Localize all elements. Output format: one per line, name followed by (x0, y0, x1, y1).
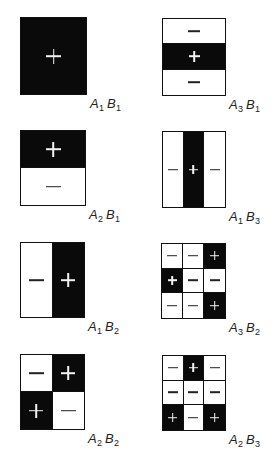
plus-sign-icon (210, 251, 219, 260)
minus-sign-icon (29, 371, 44, 375)
label-b: B (106, 207, 115, 222)
negative-region (162, 244, 183, 269)
negative-region (204, 132, 225, 207)
negative-region (163, 381, 184, 406)
positive-region (184, 132, 205, 207)
label-b-index: 1 (255, 104, 260, 114)
negative-region (163, 132, 184, 207)
negative-region (184, 405, 205, 430)
plus-sign-icon (189, 51, 200, 62)
positive-region (204, 244, 225, 269)
label-b-index: 2 (114, 326, 119, 336)
panel-label-a1b1: A1B1 (90, 96, 122, 113)
negative-region (163, 356, 184, 381)
label-a: A (88, 319, 97, 334)
minus-sign-icon (210, 366, 220, 370)
negative-region (162, 293, 183, 318)
positive-region (204, 293, 225, 318)
label-b: B (105, 431, 114, 446)
minus-sign-icon (168, 168, 178, 172)
label-b-index: 1 (115, 214, 120, 224)
plus-sign-icon (29, 404, 43, 418)
plus-sign-icon (46, 49, 61, 64)
label-a-index: 2 (238, 439, 243, 449)
minus-sign-icon (167, 254, 177, 258)
label-a: A (229, 209, 238, 224)
label-a-index: 1 (99, 103, 104, 113)
positive-region (204, 405, 225, 430)
negative-region (163, 19, 225, 44)
panel-label-a2b1: A2B1 (89, 207, 121, 224)
label-b: B (105, 319, 114, 334)
panel-label-a2b3: A2B3 (229, 432, 261, 449)
pattern-box-a2b2 (20, 354, 85, 430)
plus-sign-icon (168, 413, 177, 422)
negative-region (204, 381, 225, 406)
negative-region (183, 244, 204, 269)
label-b: B (246, 97, 255, 112)
panel-label-a3b1: A3B1 (229, 97, 261, 114)
panel-label-a3b2: A3B2 (229, 320, 261, 337)
label-a-index: 3 (238, 104, 243, 114)
label-b: B (107, 96, 116, 111)
negative-region (204, 269, 225, 294)
plus-sign-icon (46, 142, 61, 157)
label-a: A (90, 96, 99, 111)
pattern-box-a1b2 (20, 242, 85, 318)
minus-sign-icon (29, 278, 44, 282)
negative-region (183, 269, 204, 294)
label-b: B (246, 320, 255, 335)
negative-region (183, 293, 204, 318)
minus-sign-icon (210, 168, 220, 172)
minus-sign-icon (61, 409, 76, 413)
panel-label-a2b2: A2B2 (88, 431, 120, 448)
positive-region (53, 243, 85, 317)
minus-sign-icon (188, 80, 200, 84)
positive-region (21, 392, 53, 429)
minus-sign-icon (210, 390, 220, 394)
label-a: A (229, 432, 238, 447)
minus-sign-icon (188, 278, 198, 282)
panel-label-a1b2: A1B2 (88, 319, 120, 336)
label-a-index: 2 (98, 214, 103, 224)
label-b-index: 2 (114, 438, 119, 448)
minus-sign-icon (188, 390, 198, 394)
plus-sign-icon (210, 301, 219, 310)
pattern-box-a1b1 (20, 17, 87, 95)
negative-region (21, 168, 85, 205)
panel-label-a1b3: A1B3 (229, 209, 261, 226)
label-a-index: 1 (97, 326, 102, 336)
label-a: A (89, 207, 98, 222)
negative-region (184, 381, 205, 406)
minus-sign-icon (167, 304, 177, 308)
minus-sign-icon (188, 254, 198, 258)
label-a: A (229, 97, 238, 112)
positive-region (21, 18, 86, 94)
pattern-box-a2b3 (162, 355, 226, 431)
minus-sign-icon (168, 366, 178, 370)
label-a-index: 3 (238, 327, 243, 337)
negative-region (21, 243, 53, 317)
negative-region (21, 355, 53, 392)
plus-sign-icon (189, 363, 198, 372)
label-a: A (88, 431, 97, 446)
minus-sign-icon (188, 304, 198, 308)
minus-sign-icon (46, 185, 61, 189)
negative-region (204, 356, 225, 381)
label-a-index: 1 (238, 216, 243, 226)
plus-sign-icon (61, 366, 75, 380)
positive-region (184, 356, 205, 381)
label-b-index: 2 (255, 327, 260, 337)
positive-region (53, 355, 85, 392)
pattern-box-a3b1 (162, 18, 226, 96)
minus-sign-icon (210, 278, 220, 282)
label-b: B (246, 209, 255, 224)
label-b-index: 3 (255, 216, 260, 226)
plus-sign-icon (210, 413, 219, 422)
pattern-box-a1b3 (162, 131, 226, 208)
pattern-box-a3b2 (161, 243, 226, 319)
negative-region (53, 392, 85, 429)
pattern-box-a2b1 (20, 130, 86, 206)
minus-sign-icon (188, 29, 200, 33)
label-a-index: 2 (97, 438, 102, 448)
